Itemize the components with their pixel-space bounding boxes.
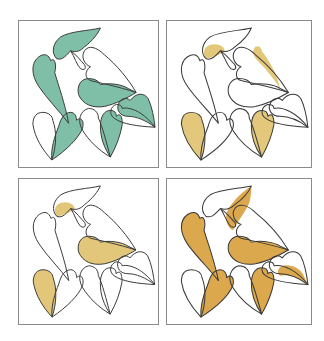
leaf-outline (201, 112, 234, 160)
panel-bottom-left (18, 178, 159, 325)
leaf-drawing (167, 21, 311, 167)
leaf-drawing (19, 21, 158, 167)
leaf-fill-a (53, 28, 100, 59)
leaf-outline (52, 270, 83, 317)
leaf-drawing (19, 179, 158, 324)
leaf-fill-g (253, 46, 280, 88)
leaf-drawing (167, 179, 311, 324)
panel-top-left (18, 20, 159, 168)
leaf-fill-c (228, 236, 288, 264)
panel-top-right (166, 20, 312, 168)
panel-bottom-right (166, 178, 312, 325)
leaf-fill-c (78, 236, 136, 264)
leaf-outline (228, 79, 288, 107)
